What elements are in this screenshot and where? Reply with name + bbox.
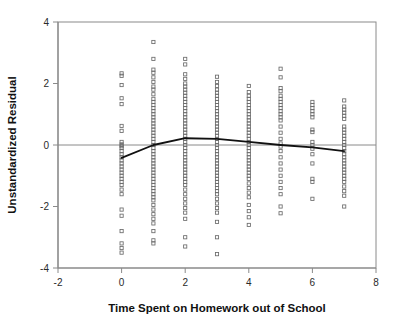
y-tick-label: 4	[43, 17, 49, 28]
scatter-plot-figure: -202468 -4-2024 Time Spent on Homework o…	[0, 0, 394, 327]
x-axis-title: Time Spent on Homework out of School	[108, 302, 326, 314]
x-tick-label: 4	[246, 277, 252, 288]
y-axis-ticks: -4-2024	[40, 17, 58, 274]
y-axis-title: Unstandardized Residual	[6, 76, 18, 213]
x-tick-label: 0	[119, 277, 125, 288]
y-tick-label: 0	[43, 140, 49, 151]
x-tick-label: -2	[54, 277, 63, 288]
y-tick-label: -4	[40, 263, 49, 274]
x-axis-ticks: -202468	[54, 268, 380, 288]
y-tick-label: 2	[43, 78, 49, 89]
y-tick-label: -2	[40, 201, 49, 212]
chart-canvas: -202468 -4-2024 Time Spent on Homework o…	[0, 0, 394, 327]
x-tick-label: 8	[373, 277, 379, 288]
x-tick-label: 2	[182, 277, 188, 288]
x-tick-label: 6	[310, 277, 316, 288]
